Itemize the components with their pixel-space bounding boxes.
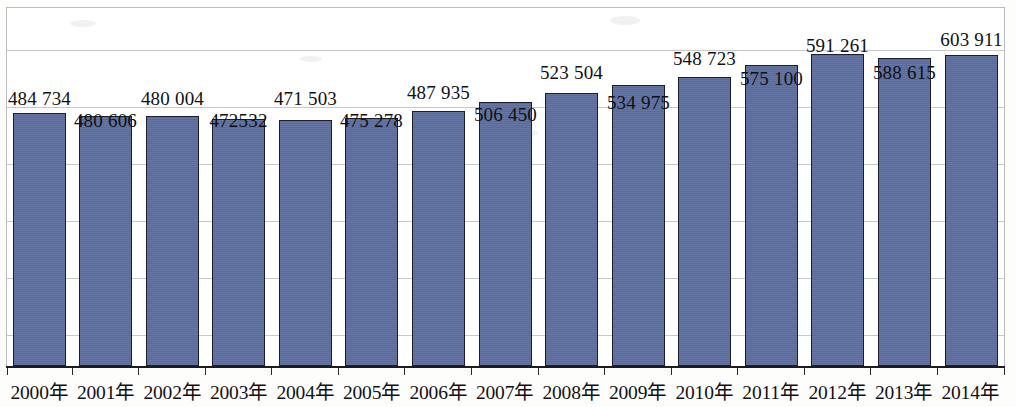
x-axis-category-label: 2005年 xyxy=(343,376,401,405)
axis-tick xyxy=(471,368,472,375)
bar xyxy=(678,77,731,366)
bar-value-label: 534 975 xyxy=(607,92,670,114)
bar-value-label: 480 004 xyxy=(141,88,204,110)
bar xyxy=(745,65,798,366)
bar-value-label: 575 100 xyxy=(740,68,803,90)
x-axis-category-label: 2003年 xyxy=(210,376,268,405)
axis-tick xyxy=(538,368,539,375)
bar xyxy=(79,116,132,366)
x-axis-category-label: 2011年 xyxy=(742,376,799,405)
x-axis-category-label: 2007年 xyxy=(476,376,534,405)
x-axis-category-label: 2009年 xyxy=(609,376,667,405)
bar xyxy=(212,119,265,366)
bar xyxy=(878,58,931,366)
x-axis-category-label: 2001年 xyxy=(77,376,135,405)
bar-value-label: 471 503 xyxy=(274,88,337,110)
axis-tick xyxy=(404,368,405,375)
bar xyxy=(279,120,332,366)
bar xyxy=(13,113,66,366)
x-axis-category-label: 2000年 xyxy=(10,376,68,405)
x-axis-category-label: 2013年 xyxy=(875,376,933,405)
bar-value-label: 523 504 xyxy=(540,62,603,84)
axis-tick xyxy=(604,368,605,375)
bar xyxy=(345,118,398,366)
axis-tick xyxy=(937,368,938,375)
bar-value-label: 548 723 xyxy=(673,48,736,70)
axis-tick xyxy=(671,368,672,375)
bar-value-label: 487 935 xyxy=(407,82,470,104)
bars-layer: 484 7342000年480 6062001年480 0042002年4725… xyxy=(0,0,1016,407)
bar xyxy=(412,111,465,366)
x-axis-category-label: 2004年 xyxy=(276,376,334,405)
bar-value-label: 588 615 xyxy=(873,62,936,84)
bar xyxy=(945,55,998,366)
bar-value-label: 472532 xyxy=(209,110,267,132)
axis-tick xyxy=(737,368,738,375)
axis-tick xyxy=(271,368,272,375)
x-axis-category-label: 2006年 xyxy=(409,376,467,405)
bar-value-label: 506 450 xyxy=(474,104,537,126)
x-axis-category-label: 2002年 xyxy=(143,376,201,405)
axis-tick xyxy=(870,368,871,375)
axis-tick xyxy=(72,368,73,375)
bar-value-label: 475 278 xyxy=(340,110,403,132)
bar-value-label: 480 606 xyxy=(74,110,137,132)
bar-chart: 484 7342000年480 6062001年480 0042002年4725… xyxy=(0,0,1016,407)
bar xyxy=(545,93,598,366)
bar-value-label: 484 734 xyxy=(8,88,71,110)
x-axis-category-label: 2014年 xyxy=(941,376,999,405)
bar xyxy=(479,102,532,366)
x-axis-category-label: 2008年 xyxy=(542,376,600,405)
axis-tick xyxy=(804,368,805,375)
axis-tick xyxy=(338,368,339,375)
axis-tick xyxy=(7,368,8,375)
axis-tick xyxy=(205,368,206,375)
bar-value-label: 603 911 xyxy=(940,29,1002,51)
bar-value-label: 591 261 xyxy=(806,35,869,57)
axis-tick xyxy=(1004,368,1005,375)
x-axis-category-label: 2010年 xyxy=(675,376,733,405)
bar xyxy=(146,116,199,366)
x-axis-category-label: 2012年 xyxy=(808,376,866,405)
axis-tick xyxy=(138,368,139,375)
bar xyxy=(811,54,864,366)
bar xyxy=(612,85,665,366)
